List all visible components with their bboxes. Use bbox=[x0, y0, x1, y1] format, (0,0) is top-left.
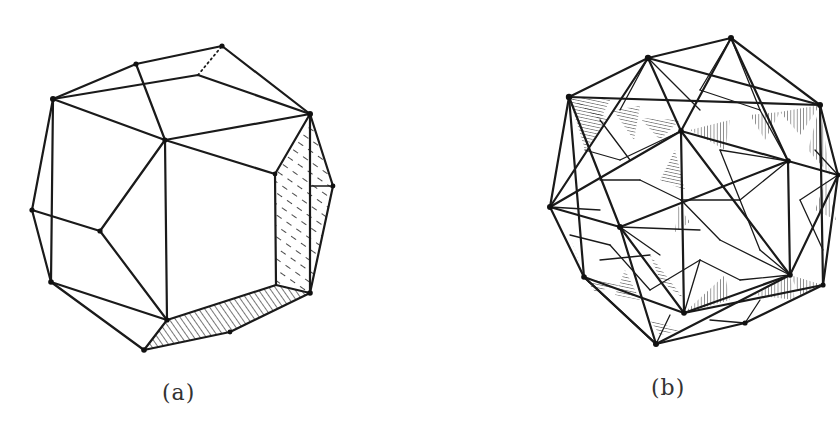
polyhedron-a bbox=[29, 43, 335, 352]
polyhedron-b bbox=[547, 35, 840, 347]
panel-label-b: (b) bbox=[651, 375, 685, 400]
vertices-b bbox=[547, 35, 840, 347]
panel-label-a: (a) bbox=[162, 380, 195, 405]
figure-canvas bbox=[0, 0, 840, 443]
hatched-face-right bbox=[275, 114, 333, 293]
hatched-face-bottom bbox=[144, 285, 310, 350]
